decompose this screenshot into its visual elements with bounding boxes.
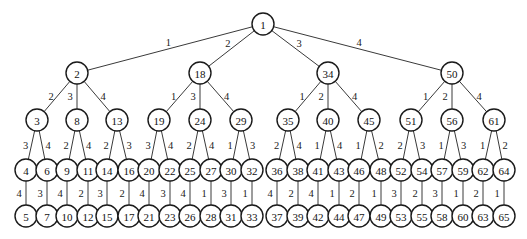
tree-node: 17: [118, 205, 140, 227]
tree-node: 18: [189, 62, 211, 84]
node-label: 49: [376, 211, 388, 223]
tree-node: 34: [317, 62, 339, 84]
tree-node: 45: [358, 109, 380, 131]
tree-node: 44: [328, 205, 350, 227]
edge-label: 2: [378, 140, 383, 151]
node-label: 11: [83, 165, 94, 177]
edge-label: 2: [288, 188, 293, 199]
tree-node: 64: [493, 159, 515, 181]
tree-node: 61: [483, 109, 505, 131]
node-label: 28: [206, 211, 218, 223]
edge-label: 2: [225, 38, 230, 49]
tree-node: 56: [441, 109, 463, 131]
node-label: 22: [165, 165, 176, 177]
node-label: 9: [64, 165, 70, 177]
tree-edge: [151, 131, 157, 159]
edge-label: 4: [296, 140, 302, 151]
edge-label: 1: [438, 140, 443, 151]
node-label: 62: [478, 165, 489, 177]
tree-node: 48: [370, 159, 392, 181]
node-label: 52: [396, 165, 407, 177]
edge-label: 4: [337, 140, 343, 151]
node-label: 45: [364, 115, 376, 127]
tree-node: 13: [106, 109, 128, 131]
tree-node: 10: [56, 205, 78, 227]
node-label: 3: [34, 115, 40, 127]
tree-edge: [243, 131, 249, 160]
node-label: 12: [83, 211, 94, 223]
tree-node: 14: [96, 159, 118, 181]
tree-node: 40: [317, 109, 339, 131]
edge-label: 4: [180, 188, 186, 199]
node-label: 6: [44, 165, 50, 177]
node-label: 18: [195, 68, 207, 80]
tree-node: 62: [472, 159, 494, 181]
edge-label: 3: [296, 38, 301, 49]
node-label: 24: [195, 115, 207, 127]
edge-label: 4: [352, 91, 358, 102]
tree-node: 29: [230, 109, 252, 131]
edge-label: 1: [494, 188, 499, 199]
edge-label: 3: [67, 91, 72, 102]
node-label: 23: [165, 211, 177, 223]
tree-edge: [69, 131, 75, 159]
edge-label: 4: [209, 140, 215, 151]
tree-node: 38: [287, 159, 309, 181]
tree-node: 7: [36, 205, 58, 227]
tree-edge: [485, 131, 491, 160]
tree-node: 30: [220, 159, 242, 181]
tree-node: 57: [431, 159, 453, 181]
edge-label: 2: [274, 140, 279, 151]
node-label: 50: [447, 68, 459, 80]
edge-label: 3: [420, 140, 425, 151]
node-label: 53: [396, 211, 408, 223]
edge-label: 2: [119, 188, 124, 199]
edge-label: 1: [314, 140, 319, 151]
edge-label: 2: [473, 188, 478, 199]
edge-label: 4: [224, 91, 230, 102]
tree-node: 25: [179, 159, 201, 181]
node-label: 61: [489, 115, 500, 127]
tree-node: 46: [348, 159, 370, 181]
edge-label: 2: [397, 140, 402, 151]
node-label: 35: [283, 115, 295, 127]
tree-edge: [161, 131, 167, 160]
tree-node: 65: [493, 205, 515, 227]
edge-label: 4: [168, 140, 174, 151]
tree-edge: [320, 131, 326, 159]
node-label: 26: [185, 211, 197, 223]
edge-label: 3: [221, 188, 226, 199]
node-label: 64: [499, 165, 511, 177]
edge-label: 4: [267, 188, 273, 199]
tree-node: 19: [148, 109, 170, 131]
edge-label: 3: [160, 188, 165, 199]
edge-label: 1: [242, 188, 247, 199]
node-label: 8: [74, 115, 80, 127]
tree-node: 21: [138, 205, 160, 227]
tree-edge: [233, 131, 239, 159]
tree-node: 20: [138, 159, 160, 181]
node-label: 20: [144, 165, 156, 177]
edge-label: 3: [250, 140, 255, 151]
edge-label: 2: [412, 188, 417, 199]
edge-label: 3: [145, 140, 150, 151]
node-label: 32: [247, 165, 258, 177]
node-label: 51: [406, 115, 417, 127]
tree-edge: [279, 131, 285, 160]
tree-node: 52: [390, 159, 412, 181]
node-label: 17: [124, 211, 136, 223]
edge-label: 4: [356, 37, 362, 48]
tree-edge: [192, 131, 198, 159]
node-label: 36: [272, 165, 284, 177]
node-label: 60: [458, 211, 470, 223]
tree-node: 1: [252, 13, 274, 35]
node-label: 13: [112, 115, 124, 127]
node-label: 59: [458, 165, 470, 177]
tree-node: 36: [266, 159, 288, 181]
tree-node: 24: [189, 109, 211, 131]
tree-node: 43: [328, 159, 350, 181]
node-label: 39: [293, 211, 305, 223]
edge-label: 2: [442, 91, 447, 102]
edge-label: 4: [86, 140, 92, 151]
tree-node: 59: [452, 159, 474, 181]
